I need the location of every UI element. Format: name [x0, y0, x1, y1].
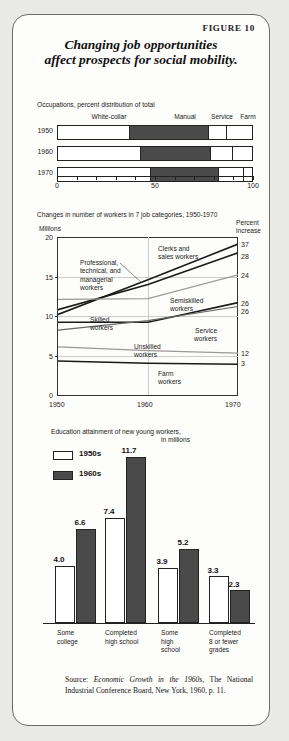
value-1950s-some-college: 4.0: [45, 555, 73, 564]
stacked-bar-1950: [57, 125, 253, 140]
panel2-caption: Changes in number of workers in 7 job ca…: [37, 211, 217, 218]
panel3-plot-area: [43, 457, 255, 623]
row-label-1960: 1960: [31, 148, 53, 155]
row-label-1950: 1950: [31, 127, 53, 134]
value-1950s-completed-high-school: 7.4: [95, 507, 123, 516]
segment-service: [209, 126, 226, 139]
panel3-caption-line2: in millions: [161, 436, 190, 443]
panel3-baseline: [43, 623, 255, 624]
panel2-ytick-20: 20: [33, 234, 53, 241]
figure-title-line2: affect prospects for social mobility.: [21, 52, 261, 67]
percent-increase-26b: 26: [241, 307, 249, 314]
segment-label-service: Service: [207, 113, 237, 120]
figure-number: FIGURE 10: [202, 23, 255, 33]
source-prefix: Source:: [65, 675, 94, 684]
panel2-right-title-2: increase: [236, 227, 261, 234]
bar-1960s-completed-8-or-fewer: [230, 590, 250, 623]
stacked-bar-1960: [57, 146, 253, 161]
series-label-skilled: Skilledworkers: [90, 316, 113, 333]
segment-label-farm: Farm: [237, 113, 259, 120]
percent-increase-37: 37: [241, 241, 249, 248]
series-label-service: Serviceworkers: [194, 327, 217, 344]
segment-white-collar: [58, 168, 151, 181]
segment-white-collar: [58, 147, 141, 160]
panel2-right-title-1: Percent: [236, 219, 259, 226]
series-label-farm: Farmworkers: [158, 370, 181, 387]
source-note: Source: Economic Growth in the 1960s, Th…: [65, 675, 253, 696]
bar-1960s-some-high-school: [179, 549, 199, 623]
category-label-some-college: Somecollege: [57, 629, 78, 646]
panel1-xtick-50: 50: [151, 182, 159, 189]
value-1960s-some-college: 6.6: [66, 518, 94, 527]
panel2-xtick-1950: 1950: [49, 401, 65, 408]
category-label-some-high-school: Somehighschool: [161, 629, 180, 655]
segment-label-manual: Manual: [163, 113, 207, 120]
segment-label-white-collar: White-collar: [69, 113, 149, 120]
series-label-unskilled: Unskilledworkers: [134, 343, 161, 360]
value-1960s-completed-high-school: 11.7: [113, 446, 145, 455]
category-label-completed-8-or-fewer: Completed8 or fewergrades: [209, 629, 241, 655]
segment-manual: [130, 126, 210, 139]
panel3-caption-line1: Education attainment of new young worker…: [51, 427, 181, 436]
segment-service: [219, 168, 244, 181]
figure-title-line1: Changing job opportunities: [21, 37, 261, 52]
percent-increase-28: 28: [241, 253, 249, 260]
panel1-xtick-100: 100: [247, 182, 259, 189]
bar-1960s-some-college: [76, 529, 96, 623]
panel1-xtick-0: 0: [55, 182, 59, 189]
value-1950s-completed-8-or-fewer: 3.3: [199, 566, 227, 575]
segment-farm: [233, 147, 252, 160]
series-label-clerks: Clerks andsales workers: [158, 245, 198, 262]
panel2-right-title: Percent increase: [236, 219, 261, 234]
category-label-completed-high-school: Completedhigh school: [105, 629, 138, 646]
bar-1950s-completed-high-school: [105, 518, 125, 623]
segment-white-collar: [58, 126, 130, 139]
percent-increase-24: 24: [241, 272, 249, 279]
panel2-ytick-5: 5: [33, 352, 53, 359]
series-label-semiskilled: Semiskilledworkers: [170, 297, 203, 314]
segment-manual: [141, 147, 211, 160]
worker-change-line-chart: Changes in number of workers in 7 job ca…: [13, 211, 271, 423]
panel2-xtick-1960: 1960: [137, 401, 153, 408]
occupation-distribution-chart: Occupations, percent distribution of tot…: [13, 101, 271, 206]
bar-1950s-some-college: [55, 566, 75, 623]
percent-increase-3: 3: [241, 360, 245, 367]
row-label-1970: 1970: [31, 169, 53, 176]
segment-farm: [244, 168, 252, 181]
figure-page: FIGURE 10 Changing job opportunities aff…: [0, 0, 289, 741]
panel2-plot-area: Professional,technical, andmanagerialwor…: [57, 237, 238, 396]
value-1960s-some-high-school: 5.2: [169, 538, 197, 547]
segment-service: [211, 147, 232, 160]
value-1960s-completed-8-or-fewer: 2.3: [220, 580, 248, 589]
panel2-y-title: Millions: [39, 225, 61, 232]
panel2-ytick-10: 10: [33, 313, 53, 320]
panel1-caption: Occupations, percent distribution of tot…: [37, 101, 155, 108]
panel2-ytick-0: 0: [33, 392, 53, 399]
bar-1960s-completed-high-school: [126, 457, 146, 623]
segment-manual: [151, 168, 219, 181]
segment-farm: [227, 126, 252, 139]
education-attainment-chart: Education attainment of new young worker…: [13, 427, 271, 677]
panel2-xtick-1970: 1970: [225, 401, 241, 408]
series-label-professional: Professional,technical, andmanagerialwor…: [80, 259, 121, 293]
percent-increase-26a: 26: [241, 300, 249, 307]
value-1950s-some-high-school: 3.9: [148, 557, 176, 566]
figure-card: FIGURE 10 Changing job opportunities aff…: [12, 14, 270, 726]
panel2-ytick-15: 15: [33, 273, 53, 280]
percent-increase-12: 12: [241, 350, 249, 357]
figure-title: Changing job opportunities affect prospe…: [21, 37, 261, 67]
source-title: Economic Growth in the 1960s,: [94, 675, 204, 684]
bar-1950s-some-high-school: [158, 568, 178, 623]
